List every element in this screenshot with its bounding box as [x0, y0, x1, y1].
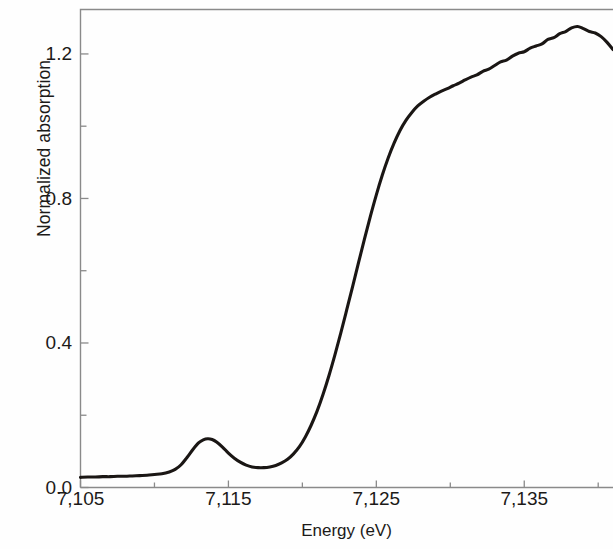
xanes-absorption-chart: Normalized absorption 0.00.40.81.2 7,105… — [0, 0, 613, 549]
axis-frame — [81, 10, 613, 488]
x-tick-label: 7,105 — [36, 489, 126, 508]
absorption-curve — [81, 26, 613, 477]
x-axis-title: Energy (eV) — [80, 521, 613, 541]
tick-marks — [81, 54, 599, 488]
x-tick-label: 7,115 — [183, 489, 273, 508]
plot-area — [0, 0, 613, 549]
x-tick-label: 7,135 — [479, 489, 569, 508]
x-tick-label: 7,125 — [331, 489, 421, 508]
